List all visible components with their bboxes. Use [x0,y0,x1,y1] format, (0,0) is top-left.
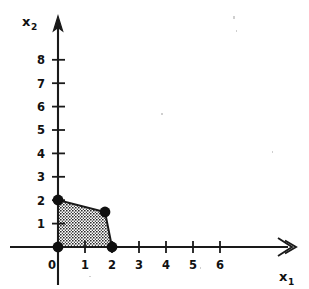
x-tick-label-6: 6 [216,258,224,272]
x-tick-label-5: 5 [189,258,197,272]
vertex-dot-bottom-right [107,242,118,253]
y-tick-label-1: 1 [37,217,45,231]
x-tick-label-1: 1 [81,258,89,272]
y-tick-label-5: 5 [37,123,45,137]
y-tick-label-8: 8 [37,53,45,67]
y-axis-label-subscript: 2 [31,22,37,32]
vertex-dot-origin [53,242,64,253]
y-tick-label-2: 2 [37,194,45,208]
y-axis-label-base: x [22,14,31,29]
origin-label: 0 [48,258,56,272]
plot-root: 1 2 3 4 5 6 7 8 1 2 3 4 5 6 0 [0,0,309,289]
vertex-dot-corner [100,207,111,218]
x-axis-label-subscript: 1 [288,277,294,287]
x-axis-label-base: x [279,269,288,284]
vertex-dot-top-left [53,195,64,206]
chart-background [0,0,309,289]
y-tick-label-3: 3 [37,170,45,184]
y-tick-label-4: 4 [37,147,45,161]
x-tick-label-2: 2 [108,258,116,272]
y-tick-label-7: 7 [37,77,45,91]
x-tick-label-4: 4 [162,258,170,272]
y-tick-label-6: 6 [37,100,45,114]
linear-programming-plot: 1 2 3 4 5 6 7 8 1 2 3 4 5 6 0 [0,0,309,289]
x-tick-label-3: 3 [135,258,143,272]
